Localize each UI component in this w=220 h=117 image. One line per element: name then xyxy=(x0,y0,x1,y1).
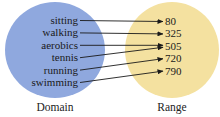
domain-caption: Domain xyxy=(36,101,73,113)
mapping-diagram: sittingwalkingaerobicstennisrunningswimm… xyxy=(0,0,220,117)
range-item-80: 80 xyxy=(165,15,177,27)
domain-item-tennis: tennis xyxy=(52,51,78,63)
range-item-720: 720 xyxy=(165,52,182,64)
domain-item-swimming: swimming xyxy=(32,76,79,88)
range-item-325: 325 xyxy=(165,27,182,39)
domain-item-walking: walking xyxy=(43,26,79,38)
domain-item-running: running xyxy=(44,64,79,76)
domain-item-sitting: sitting xyxy=(50,14,78,26)
range-caption: Range xyxy=(157,101,186,114)
domain-item-aerobics: aerobics xyxy=(41,39,78,51)
range-item-505: 505 xyxy=(165,40,182,52)
range-item-790: 790 xyxy=(165,65,182,77)
